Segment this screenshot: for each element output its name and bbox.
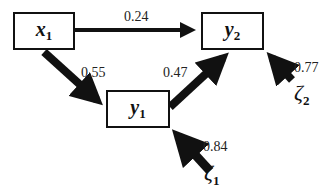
node-x1: x1 xyxy=(13,12,75,50)
node-y1: y1 xyxy=(106,90,170,128)
node-y2: y2 xyxy=(201,12,264,50)
node-y2-label: y2 xyxy=(225,18,240,44)
coef-y1-y2: 0.47 xyxy=(163,65,188,81)
disturbance-zeta2: ζ2 xyxy=(294,80,309,109)
disturbance-zeta1: ζ1 xyxy=(204,160,219,189)
path-zeta2-y2 xyxy=(272,58,292,80)
node-x1-label: x1 xyxy=(36,18,53,44)
node-y1-label: y1 xyxy=(130,96,145,122)
coef-x1-y2: 0.24 xyxy=(124,9,149,25)
coef-x1-y1: 0.55 xyxy=(81,65,106,81)
coef-zeta2: 0.77 xyxy=(294,60,319,76)
coef-zeta1: 0.84 xyxy=(203,139,228,155)
